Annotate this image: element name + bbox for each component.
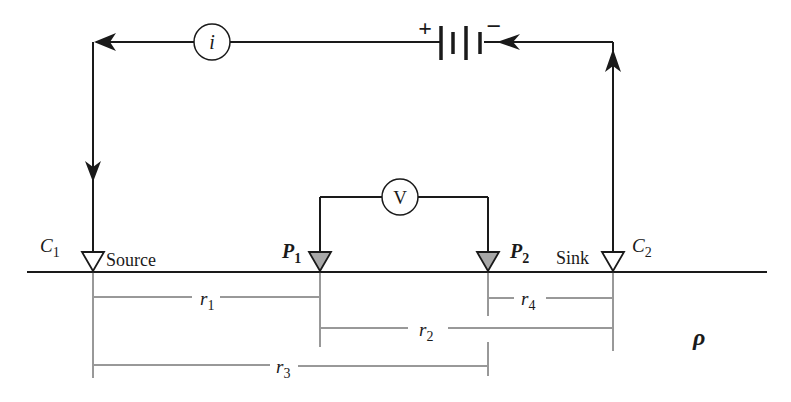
- battery: + −: [418, 12, 501, 60]
- potential-electrode-icon: [477, 252, 499, 271]
- r3-label: r3: [276, 356, 290, 381]
- battery-plus-sign: +: [418, 15, 432, 41]
- battery-minus-sign: −: [487, 12, 502, 41]
- electrode-c1: C1 Source: [40, 235, 156, 271]
- potential-electrode-icon: [309, 252, 331, 271]
- distance-annotations: r1 r4 r2 r3: [93, 272, 613, 381]
- voltmeter-circuit: V: [320, 179, 488, 252]
- ammeter: i: [194, 24, 230, 60]
- ammeter-label: i: [209, 31, 215, 53]
- r4-label: r4: [521, 288, 535, 313]
- voltmeter-label: V: [393, 187, 407, 208]
- current-electrode-icon: [82, 252, 104, 271]
- resistivity-symbol: ρ: [692, 324, 705, 350]
- source-label: Source: [106, 250, 156, 270]
- resistivity-diagram: i + − V C1 Source P1 P2 Sink C2: [0, 0, 791, 402]
- electrode-p1-label: P1: [281, 240, 301, 266]
- electrode-p1: P1: [281, 240, 331, 271]
- electrode-c2: Sink C2: [556, 235, 652, 271]
- electrode-c2-label: C2: [632, 235, 652, 260]
- sink-label: Sink: [556, 248, 589, 268]
- electrode-c1-label: C1: [40, 235, 60, 260]
- current-circuit: [85, 33, 621, 252]
- current-electrode-icon: [602, 252, 624, 271]
- electrode-p2-label: P2: [509, 240, 529, 266]
- r1-label: r1: [200, 288, 214, 313]
- r2-label: r2: [419, 319, 433, 344]
- electrode-p2: P2: [477, 240, 529, 271]
